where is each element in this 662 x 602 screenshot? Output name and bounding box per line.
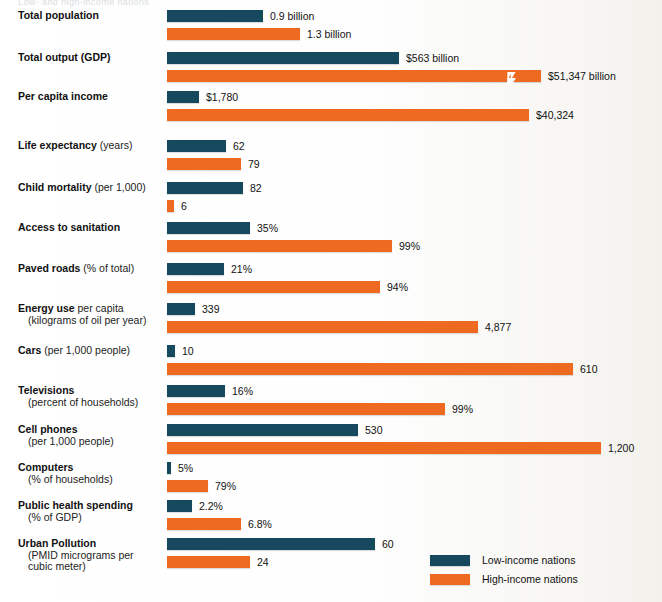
row-label-qualifier: (per 1,000 people) bbox=[41, 344, 130, 356]
comparison-bar-chart: Low- and high-income nations Total popul… bbox=[0, 0, 662, 602]
row-label-line2: (% of GDP) bbox=[18, 512, 158, 524]
bar-value-low: 530 bbox=[365, 424, 383, 436]
legend-label-low: Low-income nations bbox=[482, 555, 575, 566]
bar-value-high: 79% bbox=[215, 480, 236, 492]
bar-low bbox=[167, 140, 226, 152]
row-label: Cars (per 1,000 people) bbox=[18, 345, 158, 357]
row-label-primary: Energy use bbox=[18, 302, 75, 314]
bar-low bbox=[167, 182, 243, 194]
bar-value-low: 60 bbox=[382, 538, 394, 550]
bar-value-high: 6.8% bbox=[248, 518, 272, 530]
bar-low bbox=[167, 345, 175, 357]
bar-value-high: 99% bbox=[399, 240, 420, 252]
bar-value-low: 2.2% bbox=[199, 500, 223, 512]
chart-row: Cars (per 1,000 people)10610 bbox=[0, 345, 662, 375]
chart-row: Total population0.9 billion1.3 billion bbox=[0, 10, 662, 40]
bar-value-low: 10 bbox=[182, 345, 194, 357]
bar-value-low: $563 billion bbox=[406, 52, 459, 64]
bar-low bbox=[167, 222, 250, 234]
bar-value-low: 339 bbox=[202, 303, 220, 315]
row-label-qualifier: per capita bbox=[75, 302, 124, 314]
bar-value-low: 0.9 billion bbox=[270, 10, 314, 22]
bar-value-low: 16% bbox=[232, 385, 253, 397]
bar-value-low: 82 bbox=[250, 182, 262, 194]
bar-value-high: 24 bbox=[257, 556, 269, 568]
bar-high bbox=[167, 518, 241, 530]
chart-row: Energy use per capita(kilograms of oil p… bbox=[0, 303, 662, 333]
row-label-primary: Paved roads bbox=[18, 262, 80, 274]
row-label: Public health spending(% of GDP) bbox=[18, 500, 158, 523]
bar-value-low: 21% bbox=[231, 263, 252, 275]
bar-low bbox=[167, 303, 195, 315]
row-label-line2: (per 1,000 people) bbox=[18, 436, 158, 448]
bar-value-high: 6 bbox=[181, 200, 187, 212]
bar-high bbox=[167, 480, 208, 492]
row-label-primary: Computers bbox=[18, 461, 73, 473]
chart-row: Total output (GDP)$563 billion$51,347 bi… bbox=[0, 52, 662, 82]
bar-high bbox=[167, 281, 380, 293]
chart-title-ghost: Low- and high-income nations bbox=[18, 0, 149, 7]
bar-low bbox=[167, 462, 171, 474]
row-label-primary: Urban Pollution bbox=[18, 537, 96, 549]
bar-value-low: 35% bbox=[257, 222, 278, 234]
chart-row: Computers(% of households)5%79% bbox=[0, 462, 662, 492]
row-label-primary: Total output (GDP) bbox=[18, 51, 111, 63]
row-label-primary: Cell phones bbox=[18, 423, 78, 435]
row-label: Paved roads (% of total) bbox=[18, 263, 158, 275]
row-label: Computers(% of households) bbox=[18, 462, 158, 485]
row-label-qualifier: (years) bbox=[97, 139, 133, 151]
bar-low bbox=[167, 263, 224, 275]
chart-row: Child mortality (per 1,000)826 bbox=[0, 182, 662, 212]
legend-swatch-low bbox=[430, 555, 470, 566]
bar-high bbox=[167, 158, 241, 170]
bar-value-high: 4,877 bbox=[485, 321, 511, 333]
row-label: Total population bbox=[18, 10, 158, 22]
row-label: Energy use per capita(kilograms of oil p… bbox=[18, 303, 158, 326]
bar-low bbox=[167, 91, 199, 103]
bar-low bbox=[167, 385, 225, 397]
bar-value-high: 94% bbox=[387, 281, 408, 293]
legend-swatch-high bbox=[430, 574, 470, 585]
row-label: Televisions(percent of households) bbox=[18, 385, 158, 408]
row-label-primary: Per capita income bbox=[18, 90, 108, 102]
bar-high bbox=[167, 109, 529, 121]
row-label: Cell phones(per 1,000 people) bbox=[18, 424, 158, 447]
bar-value-high: 610 bbox=[580, 363, 598, 375]
bar-value-high: 1,200 bbox=[608, 442, 634, 454]
row-label-line2: (% of households) bbox=[18, 474, 158, 486]
bar-low bbox=[167, 500, 192, 512]
bar-value-high: $51,347 billion bbox=[548, 70, 616, 82]
bar-high bbox=[167, 403, 445, 415]
chart-row: Life expectancy (years)6279 bbox=[0, 140, 662, 170]
bar-high bbox=[167, 70, 541, 82]
row-label: Access to sanitation bbox=[18, 222, 158, 234]
bar-value-high: 79 bbox=[248, 158, 260, 170]
bar-value-low: 5% bbox=[178, 462, 193, 474]
bar-low bbox=[167, 10, 263, 22]
legend-label-high: High-income nations bbox=[482, 574, 578, 585]
bar-high bbox=[167, 442, 601, 454]
bar-value-high: $40,324 bbox=[536, 109, 574, 121]
bar-high bbox=[167, 240, 392, 252]
row-label-line2: (percent of households) bbox=[18, 397, 158, 409]
bar-value-low: 62 bbox=[233, 140, 245, 152]
row-label-line2: (kilograms of oil per year) bbox=[18, 315, 158, 327]
row-label-line3: cubic meter) bbox=[18, 561, 158, 573]
chart-row: Per capita income$1,780$40,324 bbox=[0, 91, 662, 121]
row-label-qualifier: (per 1,000) bbox=[92, 181, 146, 193]
bar-low bbox=[167, 52, 399, 64]
bar-value-high: 1.3 billion bbox=[307, 28, 351, 40]
row-label: Child mortality (per 1,000) bbox=[18, 182, 158, 194]
chart-row: Public health spending(% of GDP)2.2%6.8% bbox=[0, 500, 662, 530]
row-label: Life expectancy (years) bbox=[18, 140, 158, 152]
row-label-primary: Televisions bbox=[18, 384, 74, 396]
row-label: Total output (GDP) bbox=[18, 52, 158, 64]
bar-high bbox=[167, 200, 174, 212]
row-label-primary: Life expectancy bbox=[18, 139, 97, 151]
bar-value-low: $1,780 bbox=[206, 91, 238, 103]
chart-legend: Low-income nationsHigh-income nations bbox=[430, 555, 650, 589]
row-label-primary: Total population bbox=[18, 9, 99, 21]
row-label: Per capita income bbox=[18, 91, 158, 103]
bar-value-high: 99% bbox=[452, 403, 473, 415]
chart-row: Televisions(percent of households)16%99% bbox=[0, 385, 662, 415]
